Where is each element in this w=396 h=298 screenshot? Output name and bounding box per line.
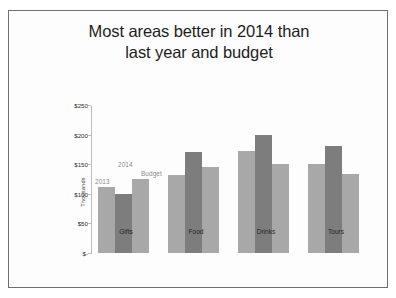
y-axis-tick-2: $150 xyxy=(74,161,88,168)
bar-gifts-budget xyxy=(132,179,149,253)
bar-tours-2013 xyxy=(308,164,325,253)
plot-area: 2013 2014 Budget GiftsFoodDrinksTours xyxy=(92,93,384,287)
y-axis-tick-1: $200 xyxy=(74,131,88,138)
chart-title-line-2: last year and budget xyxy=(25,42,373,63)
y-axis-tick-3: $100 xyxy=(74,190,88,197)
y-axis-tickmark-2 xyxy=(88,164,91,165)
y-axis-tickmark-5 xyxy=(88,253,91,254)
x-axis-label-drinks: Drinks xyxy=(238,228,294,235)
bar-gifts-2013 xyxy=(98,187,115,253)
bar-food-2014 xyxy=(185,152,202,253)
y-axis-tickmark-1 xyxy=(88,135,91,136)
bar-food-2013 xyxy=(168,175,185,253)
y-axis-tick-0: $250 xyxy=(74,102,88,109)
y-axis-tickmark-4 xyxy=(88,223,91,224)
y-axis-tick-4: $50 xyxy=(78,220,88,227)
bar-group-gifts: Gifts xyxy=(98,105,154,253)
bar-chart: Thousands $250$200$150$100$50$- 2013 201… xyxy=(9,93,388,287)
bar-food-budget xyxy=(202,167,219,253)
bar-group-food: Food xyxy=(168,105,224,253)
x-axis-label-gifts: Gifts xyxy=(98,228,154,235)
bar-group-drinks: Drinks xyxy=(238,105,294,253)
x-axis-label-food: Food xyxy=(168,228,224,235)
bar-gifts-2014 xyxy=(115,194,132,253)
slide-canvas: Most areas better in 2014 than last year… xyxy=(8,10,388,288)
y-axis-tick-labels: $250$200$150$100$50$- xyxy=(65,93,91,287)
chart-title: Most areas better in 2014 than last year… xyxy=(25,21,373,63)
bar-drinks-2014 xyxy=(255,135,272,253)
bar-tours-budget xyxy=(342,174,359,253)
y-axis-tickmark-0 xyxy=(88,105,91,106)
bar-group-tours: Tours xyxy=(308,105,364,253)
x-axis-label-tours: Tours xyxy=(308,228,364,235)
chart-title-line-1: Most areas better in 2014 than xyxy=(25,21,373,42)
bar-drinks-budget xyxy=(272,164,289,253)
y-axis-tickmark-3 xyxy=(88,194,91,195)
bar-tours-2014 xyxy=(325,146,342,253)
bar-drinks-2013 xyxy=(238,151,255,253)
